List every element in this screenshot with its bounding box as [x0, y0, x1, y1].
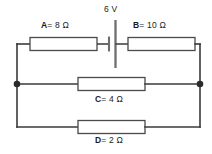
resistor-c-body — [78, 78, 145, 91]
resistor-a-value: = 8 Ω — [47, 20, 69, 30]
battery-voltage-label: 6 V — [104, 5, 117, 14]
circuit-schematic — [0, 0, 212, 154]
resistor-a-body — [30, 38, 97, 51]
resistor-c-value: = 4 Ω — [101, 94, 123, 104]
resistor-b-label: B= 10 Ω — [133, 21, 166, 30]
resistor-d-label: D= 2 Ω — [95, 136, 123, 145]
resistor-b-value: = 10 Ω — [139, 20, 166, 30]
left-junction-node-dot — [14, 81, 21, 88]
right-junction-node-dot — [197, 81, 204, 88]
resistor-b-body — [128, 38, 195, 51]
resistor-a-label: A= 8 Ω — [41, 21, 69, 30]
resistor-c-label: C= 4 Ω — [95, 95, 123, 104]
resistor-d-value: = 2 Ω — [101, 135, 123, 145]
resistor-d-body — [78, 121, 145, 134]
circuit-diagram-canvas: 6 V A= 8 Ω B= 10 Ω C= 4 Ω D= 2 Ω — [0, 0, 212, 154]
